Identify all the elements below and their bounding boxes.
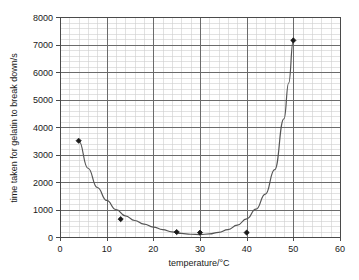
x-tick-label: 10: [102, 244, 112, 254]
chart-figure: 0102030405060 01000200030004000500060007…: [0, 0, 359, 280]
y-axis-label: time taken for gelatin to break down/s: [9, 53, 19, 203]
x-tick-label: 60: [335, 244, 345, 254]
x-tick-label: 0: [57, 244, 62, 254]
y-tick-label: 6000: [33, 68, 53, 78]
x-tick-label: 20: [148, 244, 158, 254]
x-axis-label: temperature/°C: [168, 258, 230, 268]
chart-canvas: 0102030405060 01000200030004000500060007…: [0, 0, 359, 280]
x-tick-label: 40: [242, 244, 252, 254]
y-tick-label: 5000: [33, 95, 53, 105]
y-tick-label: 4000: [33, 123, 53, 133]
y-tick-label: 3000: [33, 150, 53, 160]
y-tick-label: 1000: [33, 205, 53, 215]
y-tick-label: 0: [48, 233, 53, 243]
y-axis-tick-labels: 010002000300040005000600070008000: [33, 13, 53, 243]
y-tick-label: 8000: [33, 13, 53, 23]
y-tick-label: 7000: [33, 40, 53, 50]
y-tick-label: 2000: [33, 178, 53, 188]
x-tick-label: 50: [288, 244, 298, 254]
x-tick-label: 30: [195, 244, 205, 254]
